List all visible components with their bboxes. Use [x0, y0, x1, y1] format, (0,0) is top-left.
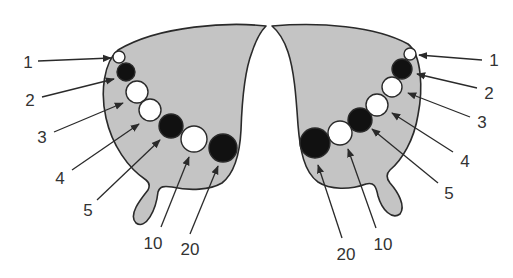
right-label-5: 5	[444, 185, 453, 202]
arrow-icon	[417, 74, 477, 88]
arrow-icon	[38, 58, 111, 61]
left-label-20: 20	[181, 241, 200, 258]
right-label-10: 10	[374, 236, 393, 253]
left-label-5: 5	[83, 202, 92, 219]
left-label-3: 3	[37, 129, 46, 146]
arrow-icon	[419, 55, 482, 60]
left-spot-4	[139, 99, 161, 121]
right-label-3: 3	[477, 114, 486, 131]
left-spot-10	[181, 126, 207, 152]
right-spot-20	[300, 128, 330, 158]
right-spot-2	[392, 59, 412, 79]
left-spot-1	[113, 51, 125, 63]
right-label-4: 4	[460, 153, 469, 170]
right-wing-shape	[272, 25, 421, 216]
left-spot-20	[209, 134, 237, 162]
right-label-20: 20	[337, 246, 356, 263]
butterfly-wings-diagram	[0, 0, 513, 278]
right-spot-1	[404, 48, 416, 60]
left-label-1: 1	[23, 54, 32, 71]
left-label-4: 4	[55, 170, 64, 187]
right-spot-3	[382, 77, 402, 97]
right-label-2: 2	[484, 85, 493, 102]
right-label-1: 1	[489, 52, 498, 69]
left-wing-shape	[103, 25, 266, 225]
left-spot-2	[117, 63, 135, 81]
left-label-10: 10	[144, 235, 163, 252]
left-spot-5	[159, 114, 183, 138]
right-spot-10	[328, 121, 352, 145]
left-label-2: 2	[25, 92, 34, 109]
